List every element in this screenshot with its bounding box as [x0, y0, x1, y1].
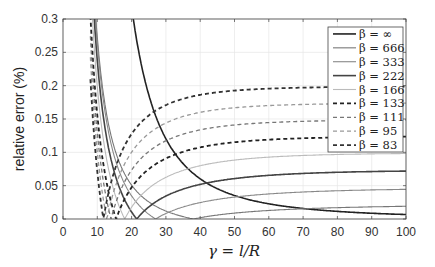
legend-label: β = 333 [359, 55, 405, 69]
legend-label: β = 83 [359, 138, 397, 152]
x-tick-label: 100 [396, 225, 416, 239]
legend: β = ∞β = 666β = 333β = 222β = 166β = 133… [328, 27, 405, 152]
x-tick-labels: 0102030405060708090100 [60, 225, 417, 239]
legend-label: β = 133 [359, 96, 405, 110]
legend-label: β = 111 [359, 110, 405, 124]
x-axis-label: γ = l/R [208, 242, 260, 260]
x-tick-label: 50 [228, 225, 242, 239]
legend-label: β = 222 [359, 69, 405, 83]
y-tick-label: 0.3 [41, 12, 58, 26]
y-tick-label: 0 [51, 212, 58, 226]
legend-label: β = 166 [359, 83, 405, 97]
x-tick-label: 80 [331, 225, 345, 239]
x-tick-label: 30 [159, 225, 173, 239]
x-tick-label: 0 [60, 225, 67, 239]
y-tick-label: 0.1 [41, 145, 58, 159]
y-tick-label: 0.2 [41, 79, 58, 93]
x-tick-label: 40 [194, 225, 208, 239]
x-tick-label: 70 [296, 225, 310, 239]
legend-label: β = 95 [359, 124, 397, 138]
x-tick-label: 60 [262, 225, 276, 239]
x-tick-label: 20 [125, 225, 139, 239]
y-tick-label: 0.25 [35, 45, 59, 59]
y-tick-label: 0.05 [35, 179, 59, 193]
x-tick-label: 10 [91, 225, 105, 239]
chart: 0102030405060708090100 00.050.10.150.20.… [0, 0, 435, 267]
y-axis-label: relative error (%) [11, 67, 27, 171]
y-tick-label: 0.15 [35, 112, 59, 126]
legend-label: β = 666 [359, 41, 405, 55]
x-tick-label: 90 [365, 225, 379, 239]
y-tick-labels: 00.050.10.150.20.250.3 [35, 12, 59, 226]
legend-label: β = ∞ [359, 27, 392, 41]
